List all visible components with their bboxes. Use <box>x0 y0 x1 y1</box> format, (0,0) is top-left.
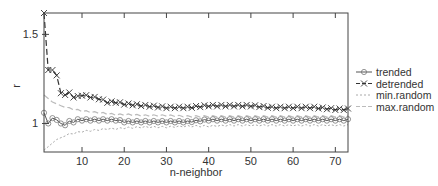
x-marker <box>214 103 220 109</box>
x-marker <box>282 105 288 111</box>
x-marker <box>273 105 279 111</box>
series-detrended <box>41 10 351 113</box>
series-line <box>44 13 348 110</box>
y-axis-label: r <box>10 84 22 88</box>
x-tick-label: 60 <box>287 155 299 167</box>
x-marker <box>294 104 300 110</box>
y-tick-label: 1 <box>32 117 38 129</box>
series-min-random <box>44 125 348 151</box>
x-tick-label: 70 <box>329 155 341 167</box>
x-marker <box>54 72 60 78</box>
x-marker <box>303 104 309 110</box>
legend-label: detrended <box>376 78 423 90</box>
x-marker <box>286 104 292 110</box>
x-marker <box>235 102 241 108</box>
x-marker <box>104 100 110 106</box>
x-marker <box>337 106 343 112</box>
x-marker <box>341 107 347 113</box>
x-tick-label: 10 <box>76 155 88 167</box>
x-marker <box>223 103 229 109</box>
x-marker <box>71 94 77 100</box>
plot-area <box>41 10 351 150</box>
x-marker <box>168 104 174 110</box>
x-marker <box>231 103 237 109</box>
x-marker <box>210 102 216 108</box>
legend: trendeddetrendedmin.randommax.random <box>356 66 435 113</box>
legend-label: min.random <box>376 89 432 101</box>
x-marker <box>244 102 250 108</box>
legend-x-icon <box>361 81 367 87</box>
x-marker <box>277 104 283 110</box>
legend-item-min-random: min.random <box>356 89 432 101</box>
x-marker <box>299 105 305 111</box>
y-tick-label: 1.5 <box>23 28 38 40</box>
x-marker <box>109 98 115 104</box>
x-axis: 10203040506070 <box>76 13 342 167</box>
legend-item-max-random: max.random <box>356 101 435 113</box>
x-marker <box>218 102 224 108</box>
x-marker <box>290 105 296 111</box>
x-marker <box>239 103 245 109</box>
legend-item-trended: trended <box>356 66 412 78</box>
x-marker <box>307 105 313 111</box>
x-tick-label: 50 <box>245 155 257 167</box>
series-line <box>44 125 348 151</box>
x-marker <box>180 105 186 111</box>
x-marker <box>176 104 182 110</box>
x-marker <box>172 105 178 111</box>
legend-label: max.random <box>376 101 435 113</box>
x-axis-label: n-neighbor <box>170 166 223 178</box>
legend-item-detrended: detrended <box>356 78 423 90</box>
line-chart: 10203040506070 11.5 n-neighbor r trended… <box>0 0 438 186</box>
x-tick-label: 20 <box>118 155 130 167</box>
legend-label: trended <box>376 66 412 78</box>
x-marker <box>227 102 233 108</box>
